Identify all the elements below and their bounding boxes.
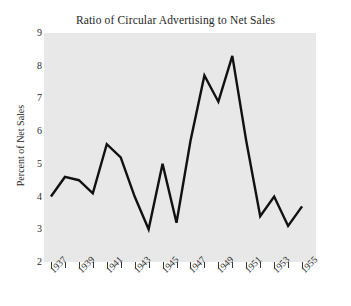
chart-title: Ratio of Circular Advertising to Net Sal…	[0, 14, 351, 26]
y-tick-label: 4	[20, 192, 42, 202]
y-tick-label: 5	[20, 159, 42, 169]
x-axis-tick-labels: 1937193919411943194519471949195119531955	[44, 268, 334, 306]
data-line-series	[51, 56, 302, 229]
y-tick-label: 2	[20, 257, 42, 267]
y-tick-label: 7	[20, 93, 42, 103]
data-line-svg	[44, 33, 316, 262]
y-tick-label: 6	[20, 126, 42, 136]
plot-area	[44, 33, 316, 262]
y-tick-label: 8	[20, 61, 42, 71]
y-tick-label: 3	[20, 224, 42, 234]
y-axis-tick-labels: 23456789	[16, 0, 42, 306]
chart-figure: Ratio of Circular Advertising to Net Sal…	[0, 0, 351, 306]
y-tick-label: 9	[20, 28, 42, 38]
